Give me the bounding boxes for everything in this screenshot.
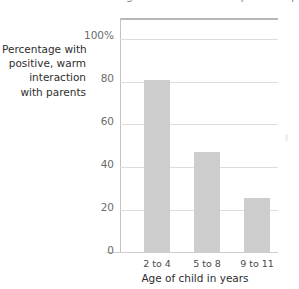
bar-2-to-4[interactable] [144, 80, 170, 252]
xtick-label-5-to-8: 5 to 8 [179, 258, 235, 269]
y-axis-caption-line: positive, warm [2, 56, 86, 70]
clipped-title-strip: Percentage of children with positive par… [0, 0, 299, 11]
plot-frame-top-border [120, 18, 278, 20]
ytick-label-80: 80 [68, 72, 114, 84]
bar-chart-plot-area [120, 18, 278, 253]
clipped-chart-title: Percentage of children with positive par… [74, 0, 299, 2]
bar-5-to-8[interactable] [194, 152, 220, 252]
xtick-label-9-to-11: 9 to 11 [229, 258, 285, 269]
plot-frame-left-axis [120, 18, 121, 253]
ytick-label-0: 0 [68, 244, 114, 256]
bar-9-to-11[interactable] [244, 198, 270, 252]
y-axis-caption: Percentage with positive, warm interacti… [2, 42, 86, 99]
x-axis-title: Age of child in years [100, 272, 290, 284]
ytick-label-60: 60 [68, 115, 114, 127]
scan-artifact-speck [285, 134, 288, 141]
y-axis-caption-line: Percentage with [2, 42, 86, 56]
ytick-label-100: 100% [68, 29, 114, 41]
x-axis-baseline [106, 252, 278, 253]
xtick-label-2-to-4: 2 to 4 [129, 258, 185, 269]
ytick-label-40: 40 [68, 158, 114, 170]
y-axis-caption-line: with parents [2, 85, 86, 99]
gridline-100 [120, 39, 278, 40]
ytick-label-20: 20 [68, 201, 114, 213]
